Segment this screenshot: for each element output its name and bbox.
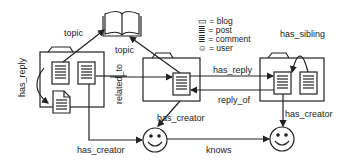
edge-label-has-creator-mid: has_creator (157, 114, 205, 123)
edge-label-has-creator-bottom: has_creator (77, 146, 125, 155)
edge-label-related-to: related_to (115, 64, 124, 104)
legend: ▭ = blog ≣ = post ≣ = comment ☺ = user (198, 17, 251, 53)
edge-label-has-sibling: has_sibling (280, 30, 325, 39)
diagram-graphics (0, 0, 348, 164)
edge-label-reply-of: reply_of (218, 96, 250, 105)
user-icon-left (143, 128, 167, 152)
edge-label-has-reply-vertical: has_reply (18, 58, 27, 97)
edge-label-topic-right: topic (115, 46, 134, 55)
blog-folder-right (260, 53, 324, 101)
edge-label-has-creator-right: has_creator (285, 110, 333, 119)
social-network-schema-diagram: ▭ = blog ≣ = post ≣ = comment ☺ = user t… (0, 0, 348, 164)
user-icon-right (270, 127, 294, 151)
edge-label-knows: knows (206, 146, 232, 155)
edge-label-has-reply: has_reply (213, 66, 252, 75)
book-icon (103, 12, 141, 37)
blog-folder-left (40, 47, 104, 113)
legend-user: ☺ = user (198, 44, 251, 53)
edge-label-topic-left: topic (64, 29, 83, 38)
